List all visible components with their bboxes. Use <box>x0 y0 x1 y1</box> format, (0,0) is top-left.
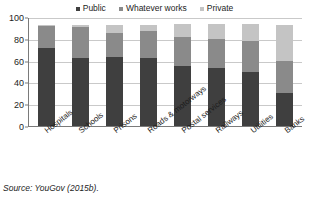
y-axis: 020406080100 <box>0 18 28 128</box>
y-axis-tick-label: 80 <box>14 35 24 44</box>
source-note: Source: YouGov (2015b). <box>3 183 99 193</box>
legend-entry-private: Private <box>200 4 233 13</box>
bar-segment[interactable] <box>242 41 259 72</box>
bar-stack[interactable] <box>140 18 157 126</box>
bar-segment[interactable] <box>38 48 55 126</box>
bar-segment[interactable] <box>106 57 123 126</box>
bar-stack[interactable] <box>72 18 89 126</box>
bar-segment[interactable] <box>208 39 225 68</box>
y-axis-tick-label: 0 <box>19 123 24 132</box>
chart-legend: Public Whatever works Private <box>0 2 309 15</box>
legend-label: Whatever works <box>126 4 187 13</box>
legend-label: Public <box>83 4 106 13</box>
bar-segment[interactable] <box>276 25 293 61</box>
bar-stack[interactable] <box>276 18 293 126</box>
bar-segment[interactable] <box>140 31 157 58</box>
square-marker-icon <box>119 7 123 11</box>
x-axis: HospitalsSchoolsPrisonsRoads & motorways… <box>28 128 302 188</box>
bar-segment[interactable] <box>38 26 55 48</box>
square-marker-icon <box>76 7 80 11</box>
bar-segment[interactable] <box>140 58 157 126</box>
bar-segment[interactable] <box>72 58 89 126</box>
bar-stack[interactable] <box>106 18 123 126</box>
bar-segment[interactable] <box>174 24 191 37</box>
bar-segment[interactable] <box>106 25 123 34</box>
bar-segment[interactable] <box>208 24 225 39</box>
y-axis-tick-label: 20 <box>14 101 24 110</box>
y-axis-tick-label: 40 <box>14 79 24 88</box>
bar-segment[interactable] <box>174 37 191 66</box>
bar-segment[interactable] <box>106 33 123 57</box>
legend-entry-whatever-works: Whatever works <box>119 4 187 13</box>
bar-stack[interactable] <box>242 18 259 126</box>
legend-label: Private <box>207 4 233 13</box>
legend-entry-public: Public <box>76 4 106 13</box>
bar-stack[interactable] <box>38 18 55 126</box>
bar-segment[interactable] <box>72 27 89 59</box>
y-axis-tick-label: 100 <box>9 14 24 23</box>
y-axis-tick-label: 60 <box>14 57 24 66</box>
bar-segment[interactable] <box>276 61 293 94</box>
bar-segment[interactable] <box>242 72 259 127</box>
square-marker-icon <box>200 7 204 11</box>
bar-segment[interactable] <box>242 24 259 41</box>
